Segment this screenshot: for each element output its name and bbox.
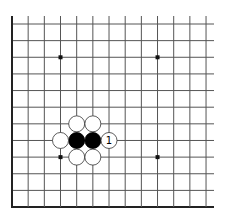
white-stone bbox=[69, 116, 85, 132]
white-stone bbox=[85, 116, 101, 132]
star-point bbox=[156, 155, 160, 159]
black-stone bbox=[69, 132, 85, 148]
star-point bbox=[156, 55, 160, 59]
move-number-label: 1 bbox=[106, 135, 112, 146]
white-stone: 1 bbox=[101, 132, 117, 148]
black-stone bbox=[85, 132, 101, 148]
white-stone bbox=[69, 149, 85, 165]
star-point bbox=[59, 55, 63, 59]
white-stone bbox=[85, 149, 101, 165]
go-board: 1 bbox=[0, 0, 228, 218]
board-grid bbox=[12, 16, 214, 208]
white-stone bbox=[53, 132, 69, 148]
star-point bbox=[59, 155, 63, 159]
